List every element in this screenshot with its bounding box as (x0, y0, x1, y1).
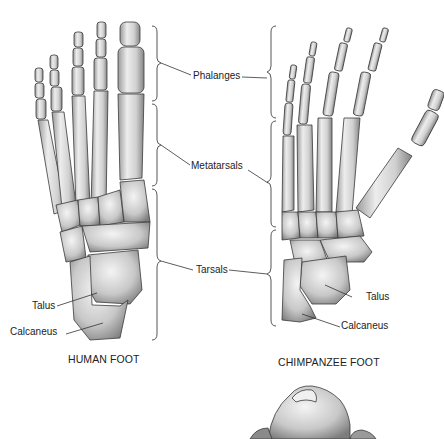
chimp-tarsals (282, 210, 372, 322)
human-label-talus: Talus (32, 300, 55, 312)
label-tarsals: Tarsals (196, 264, 228, 276)
chimp-tarsals-bracket (267, 230, 276, 326)
human-talus (86, 250, 142, 304)
chimp-toe-5 (282, 65, 297, 212)
cropped-bone-bottom (250, 386, 376, 439)
chimp-toe-1 (356, 89, 444, 218)
human-tarsals (56, 180, 150, 340)
chimpanzee-foot (282, 27, 444, 322)
chimp-label-talus: Talus (366, 291, 389, 303)
human-foot (35, 22, 150, 340)
human-label-calcaneus: Calcaneus (10, 326, 57, 338)
human-toe-3 (72, 32, 90, 207)
label-metatarsals: Metatarsals (191, 160, 243, 172)
chimp-metatarsals-bracket (267, 121, 276, 227)
label-phalanges: Phalanges (193, 70, 240, 82)
human-toe-2 (91, 22, 108, 208)
chimp-label-calcaneus: Calcaneus (341, 320, 388, 332)
chimp-brackets (267, 26, 276, 326)
human-phalanges-bracket (152, 26, 161, 101)
chimp-toe-4 (297, 42, 317, 212)
chimp-phalanges-bracket (267, 26, 276, 118)
human-toe-1 (118, 22, 144, 180)
human-tarsals-bracket (152, 189, 161, 340)
caption-human-foot: HUMAN FOOT (68, 353, 140, 365)
diagram-artwork (0, 0, 444, 439)
human-metatarsals-bracket (152, 104, 161, 186)
caption-chimpanzee-foot: CHIMPANZEE FOOT (278, 356, 380, 368)
human-brackets (152, 26, 161, 340)
foot-comparison-diagram: Phalanges Metatarsals Tarsals Talus Calc… (0, 0, 444, 439)
chimp-talus (300, 256, 350, 304)
